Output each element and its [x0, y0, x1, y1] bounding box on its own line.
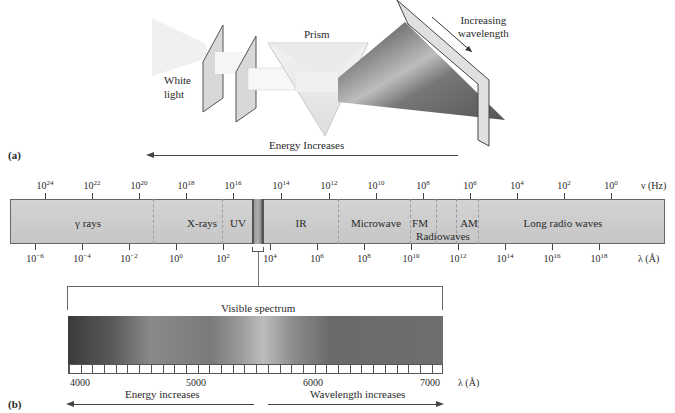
visible-spectrum-gradient [68, 316, 443, 364]
freq-tick [329, 193, 330, 199]
ruler-label-4000: 4000 [70, 377, 90, 388]
region-divider [478, 199, 479, 244]
freq-tick-label: 1024 [37, 179, 54, 191]
freq-tick [233, 193, 234, 199]
freq-tick [517, 193, 518, 199]
region-microwave: Microwave [351, 217, 401, 229]
freq-tick [186, 193, 187, 199]
freq-tick [611, 193, 612, 199]
wavelength-tick [552, 244, 553, 250]
freq-tick-label: 104 [510, 179, 524, 191]
wavelength-tick [129, 244, 130, 250]
wavelength-tick-label: 102 [216, 252, 230, 264]
wavelength-axis-label: λ (Å) [638, 253, 659, 264]
wavelength-tick [223, 244, 224, 250]
increasing-wavelength-label: Increasing wavelength [458, 14, 509, 40]
freq-tick-label: 1016 [225, 179, 242, 191]
wavelength-ruler [68, 364, 443, 374]
wavelength-tick [270, 244, 271, 250]
region-ir: IR [296, 217, 307, 229]
frequency-axis-label: ν (Hz) [641, 180, 666, 191]
freq-tick [281, 193, 282, 199]
prism-label: Prism [304, 28, 330, 40]
wavelength-tick [364, 244, 365, 250]
wavelength-tick-label: 108 [357, 252, 371, 264]
wavelength-tick-label: 10−2 [120, 252, 137, 264]
freq-tick-label: 1010 [368, 179, 385, 191]
wavelength-tick-label: 104 [263, 252, 277, 264]
wavelength-tick-label: 10−6 [26, 252, 43, 264]
wavelength-tick-label: 100 [169, 252, 183, 264]
wavelength-tick-label: 1012 [450, 252, 467, 264]
freq-tick-label: 1012 [321, 179, 338, 191]
visible-spectrum-title: Visible spectrum [221, 302, 295, 314]
region-divider [222, 199, 223, 244]
wavelength-tick [505, 244, 506, 250]
region-divider [338, 199, 339, 244]
region-gamma-rays: γ rays [75, 217, 101, 229]
panel-a-label: (a) [8, 149, 21, 161]
energy-increases-label: Energy Increases [269, 139, 344, 151]
freq-tick [139, 193, 140, 199]
ruler-label-7000: 7000 [420, 377, 440, 388]
wavelength-tick [458, 244, 459, 250]
wavelength-tick [35, 244, 36, 250]
freq-tick-label: 102 [557, 179, 571, 191]
visible-band-strip [252, 199, 264, 244]
freq-tick-label: 108 [416, 179, 430, 191]
wavelength-tick-label: 1010 [403, 252, 420, 264]
prism-illustration [0, 0, 675, 150]
energy-increases-label-b: Energy increases [125, 388, 200, 400]
region-x-rays: X-rays [187, 217, 217, 229]
freq-tick-label: 1020 [131, 179, 148, 191]
region-divider [153, 199, 154, 244]
wavelength-tick-label: 1014 [497, 252, 514, 264]
freq-tick [564, 193, 565, 199]
freq-tick-label: 100 [604, 179, 618, 191]
region-divider [410, 199, 411, 244]
wavelength-tick [176, 244, 177, 250]
region-radiowaves: Radiowaves [416, 230, 470, 242]
freq-tick [376, 193, 377, 199]
freq-tick-label: 1018 [178, 179, 195, 191]
region-am: AM [460, 217, 478, 229]
ruler-label-6000: 6000 [303, 377, 323, 388]
ruler-label-5000: 5000 [186, 377, 206, 388]
wavelength-tick [317, 244, 318, 250]
wavelength-tick [82, 244, 83, 250]
wavelength-increases-label: Wavelength increases [310, 388, 405, 400]
wavelength-tick-label: 1018 [591, 252, 608, 264]
region-fm: FM [412, 217, 428, 229]
wavelength-tick-label: 1016 [544, 252, 561, 264]
wavelength-tick [411, 244, 412, 250]
freq-tick [423, 193, 424, 199]
wavelength-tick-label: 106 [310, 252, 324, 264]
visible-wavelength-axis-label: λ (Å) [458, 377, 479, 388]
wavelength-tick-label: 10−4 [73, 252, 90, 264]
region-long-radio-waves: Long radio waves [524, 217, 603, 229]
panel-b-label: (b) [8, 398, 21, 410]
freq-tick-label: 1022 [84, 179, 101, 191]
freq-tick [470, 193, 471, 199]
white-light-beam [152, 18, 208, 76]
freq-tick-label: 106 [463, 179, 477, 191]
wavelength-tick [599, 244, 600, 250]
freq-tick [92, 193, 93, 199]
bracket-connector [258, 252, 259, 286]
freq-tick [45, 193, 46, 199]
region-uv: UV [230, 217, 246, 229]
freq-tick-label: 1014 [273, 179, 290, 191]
white-light-label: White light [164, 73, 191, 101]
